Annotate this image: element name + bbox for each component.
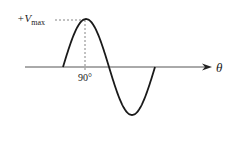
phase-label-90: 90° [78,72,92,83]
peak-label: +Vmax [17,12,45,27]
peak-label-subscript: max [31,18,45,27]
peak-label-prefix: +V [17,12,32,24]
sine-wave-diagram: θ +Vmax 90° [0,0,228,144]
axis-label-theta: θ [216,60,223,75]
